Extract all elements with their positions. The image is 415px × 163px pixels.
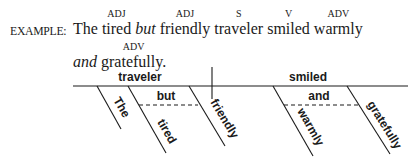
diagram-verb: smiled [289, 70, 327, 84]
diagram-modifier-warmly: warmly [294, 105, 327, 149]
diagram-modifier-tired: tired [154, 117, 179, 147]
sentence-diagram: traveler smiled but and The tired friend… [0, 0, 415, 163]
diagram-modifier-gratefully: gratefully [364, 98, 405, 152]
diagram-conjunction-and: and [308, 89, 329, 103]
diagram-modifier-friendly: friendly [207, 96, 241, 141]
diagram-conjunction-but: but [157, 89, 176, 103]
diagram-subject: traveler [118, 70, 162, 84]
